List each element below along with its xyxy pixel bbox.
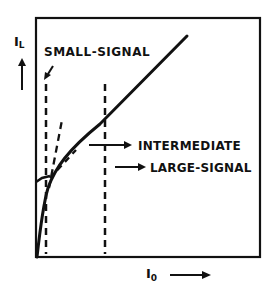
intermediate-arrowhead-icon bbox=[124, 141, 132, 149]
diagram-canvas: IL SMALL-SIGNAL INTERMEDIATE LARGE-SIGNA… bbox=[0, 0, 277, 299]
intermediate-label: INTERMEDIATE bbox=[138, 139, 241, 153]
small-signal-label: SMALL-SIGNAL bbox=[44, 45, 150, 59]
x-axis-arrowhead-icon bbox=[202, 271, 211, 279]
y-axis-label: IL bbox=[14, 34, 25, 50]
large-signal-arrowhead-icon bbox=[138, 163, 146, 171]
large-signal-label: LARGE-SIGNAL bbox=[150, 161, 252, 175]
small-signal-pointer bbox=[48, 66, 53, 74]
y-axis-arrowhead-icon bbox=[18, 58, 26, 66]
low-tangent-segment bbox=[36, 176, 50, 182]
x-axis-label: I0 bbox=[146, 266, 157, 283]
